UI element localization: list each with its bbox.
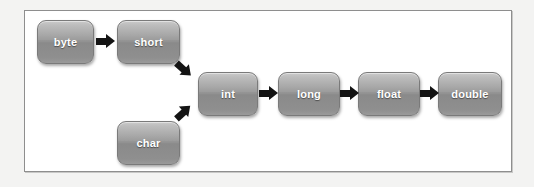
node-label-short: short bbox=[134, 37, 163, 48]
arrow-head bbox=[430, 86, 439, 100]
node-label-double: double bbox=[451, 89, 488, 100]
diagram-panel: byte short char int long float double bbox=[24, 10, 512, 172]
node-label-char: char bbox=[136, 138, 160, 149]
arrow-icon-byte-to-short bbox=[96, 34, 115, 49]
node-char[interactable]: char bbox=[117, 121, 180, 165]
arrow-head bbox=[269, 86, 278, 100]
arrow-icon-char-to-int bbox=[171, 101, 195, 125]
node-long[interactable]: long bbox=[278, 72, 340, 116]
diagram-canvas: byte short char int long float double bbox=[0, 0, 534, 187]
node-label-byte: byte bbox=[54, 37, 77, 48]
node-short[interactable]: short bbox=[117, 20, 180, 64]
node-label-int: int bbox=[221, 89, 235, 100]
node-label-long: long bbox=[297, 89, 321, 100]
node-float[interactable]: float bbox=[358, 72, 420, 116]
arrow-icon-int-to-long bbox=[259, 86, 278, 101]
node-label-float: float bbox=[377, 89, 401, 100]
node-byte[interactable]: byte bbox=[37, 20, 94, 64]
arrow-head bbox=[106, 34, 115, 48]
arrow-head bbox=[350, 86, 359, 100]
arrow-icon-float-to-double bbox=[420, 86, 439, 101]
arrow-icon-long-to-float bbox=[340, 86, 359, 101]
node-double[interactable]: double bbox=[438, 72, 502, 116]
node-int[interactable]: int bbox=[198, 72, 258, 116]
